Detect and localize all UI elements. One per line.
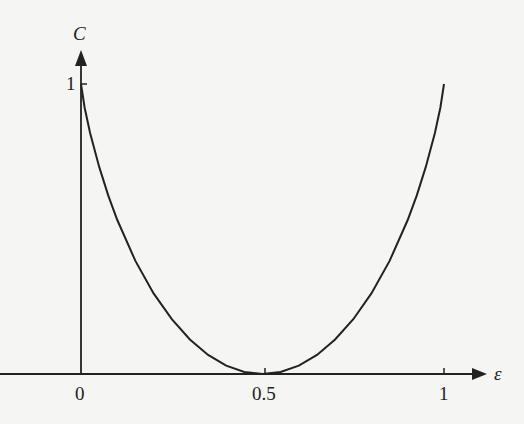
x-tick-label-0: 0 <box>75 383 85 404</box>
x-tick-label-1: 1 <box>439 383 449 404</box>
y-axis-arrow-icon <box>75 50 87 66</box>
chart-svg: C 1 0 0.5 1 ε <box>0 0 524 424</box>
x-axis-label: ε <box>494 363 502 384</box>
x-axis-arrow-icon <box>472 368 487 380</box>
y-tick-label-1: 1 <box>66 73 76 94</box>
x-tick-label-05: 0.5 <box>252 383 276 404</box>
y-axis-label: C <box>73 23 86 44</box>
capacity-curve <box>81 84 444 374</box>
chart-root: C 1 0 0.5 1 ε <box>0 0 524 424</box>
